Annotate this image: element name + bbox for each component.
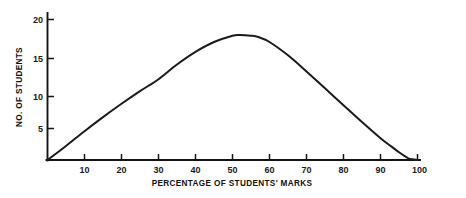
x-tick-label-40: 40 [190,165,200,175]
x-tick-label-90: 90 [375,165,385,175]
x-tick-label-30: 30 [153,165,163,175]
y-axis-title: NO. OF STUDENTS [15,47,24,127]
y-tick-label-15: 15 [33,54,43,64]
y-axis-tick-labels: 20 15 10 5 [33,15,43,134]
y-tick-label-20: 20 [33,15,43,25]
y-tick-label-10: 10 [33,92,43,102]
x-tick-label-10: 10 [79,165,89,175]
x-axis-title: PERCENTAGE OF STUDENTS' MARKS [152,179,313,188]
y-tick-label-5: 5 [38,124,43,134]
x-tick-label-60: 60 [264,165,274,175]
x-tick-label-100: 100 [412,165,427,175]
frequency-curve-plot: 20 15 10 5 10 20 30 40 50 60 70 [0,0,466,198]
x-axis-tick-labels: 10 20 30 40 50 60 70 80 90 100 [79,165,427,175]
x-tick-label-20: 20 [116,165,126,175]
x-tick-label-70: 70 [301,165,311,175]
y-axis-ticks [48,20,55,129]
chart-figure: 20 15 10 5 10 20 30 40 50 60 70 [0,0,466,198]
x-tick-label-50: 50 [227,165,237,175]
x-tick-label-80: 80 [338,165,348,175]
distribution-curve [48,35,418,160]
